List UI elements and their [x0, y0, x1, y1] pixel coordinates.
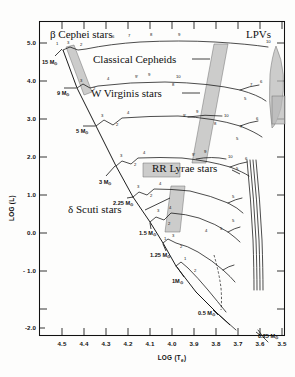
label-lpvs: LPVs [246, 28, 271, 40]
x-tick-label: 4.4 [80, 340, 89, 347]
y-tick-label: 3.0 [27, 115, 36, 122]
x-tick-label: 4.5 [58, 340, 67, 347]
x-tick-label: 3.6 [256, 340, 265, 347]
point-number: 10 [228, 154, 233, 159]
x-tick-label: 3.5 [278, 340, 287, 347]
point-number: 10 [224, 113, 229, 118]
y-tick-label: -2.0 [25, 324, 37, 331]
x-tick-label: 3.7 [234, 340, 243, 347]
y-tick-label: 0.0 [27, 229, 36, 236]
x-tick-label: 4.0 [168, 340, 177, 347]
label-rr-lyrae: RR Lyrae stars [152, 162, 217, 174]
x-tick-label: 4.2 [124, 340, 133, 347]
label-beta-cephei: β Cephei stars [50, 28, 112, 40]
hr-diagram-figure: 4.5 4.4 4.3 4.2 4.1 4.0 3.9 3.8 3.7 3.6 … [0, 0, 295, 377]
y-tick-label: - 1.0 [23, 267, 36, 274]
x-tick-label: 4.1 [146, 340, 155, 347]
lpv-region-lower [272, 96, 285, 124]
hr-diagram-svg: 4.5 4.4 4.3 4.2 4.1 4.0 3.9 3.8 3.7 3.6 … [0, 0, 295, 377]
point-number: 9' [192, 152, 195, 157]
y-tick-label: 5.0 [27, 39, 36, 46]
y-tick-label: 2.0 [27, 153, 36, 160]
point-number: 9' [183, 113, 186, 118]
point-number: 10 [176, 74, 181, 79]
y-tick-label: 4.0 [27, 77, 36, 84]
label-w-virginis: W Virginis stars [91, 87, 162, 99]
x-tick-label: 4.3 [102, 340, 111, 347]
label-classical-cepheids: Classical Cepheids [93, 53, 176, 65]
x-tick-label: 3.8 [212, 340, 221, 347]
point-number: 9' [135, 74, 138, 79]
y-axis-title: LOG (L) [8, 195, 16, 221]
x-tick-label: 3.9 [190, 340, 199, 347]
y-tick-label: 1.0 [27, 191, 36, 198]
